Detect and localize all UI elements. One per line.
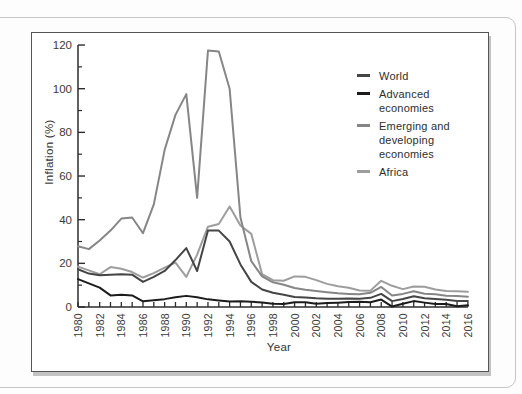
x-tick-label: 2004	[332, 313, 344, 338]
x-tick-label: 1996	[245, 313, 257, 338]
legend-swatch-africa	[357, 170, 370, 173]
legend-item-world: World	[357, 69, 487, 83]
x-tick-label: 2016	[462, 313, 474, 338]
x-tick-label: 1994	[224, 313, 236, 338]
y-tick-label: 100	[53, 83, 72, 95]
legend-swatch-emerging-developing	[357, 124, 370, 127]
x-tick-label: 1984	[115, 313, 127, 338]
x-tick-label: 1980	[72, 313, 84, 338]
x-tick-label: 1988	[159, 313, 171, 338]
x-tick-label: 2008	[375, 313, 387, 338]
legend: World Advanced economies Emerging and de…	[357, 69, 487, 183]
y-tick-label: 20	[59, 257, 72, 269]
legend-label-emerging-developing: Emerging and developing economies	[379, 119, 487, 161]
x-tick-label: 2010	[397, 313, 409, 338]
x-axis-title: Year	[229, 341, 329, 353]
y-tick-label: 40	[59, 214, 72, 226]
x-tick-label: 2014	[440, 313, 452, 338]
x-tick-label: 2012	[419, 313, 431, 338]
y-tick-label: 120	[53, 39, 72, 51]
x-tick-label: 2006	[354, 313, 366, 338]
series-line-world	[78, 231, 468, 302]
legend-item-africa: Africa	[357, 165, 487, 179]
legend-label-advanced-economies: Advanced economies	[379, 87, 487, 115]
x-tick-label: 1990	[180, 313, 192, 338]
x-tick-label: 1998	[267, 313, 279, 338]
y-axis-title: Inflation (%)	[43, 82, 55, 222]
page: { "chart_data": { "type": "line", "title…	[0, 0, 522, 394]
legend-item-emerging-developing: Emerging and developing economies	[357, 119, 487, 161]
x-tick-label: 1982	[94, 313, 106, 338]
y-tick-label: 80	[59, 126, 72, 138]
x-tick-label: 2002	[310, 313, 322, 338]
x-tick-label: 1986	[137, 313, 149, 338]
legend-swatch-world	[357, 74, 370, 77]
legend-label-africa: Africa	[379, 165, 408, 179]
y-tick-label: 0	[66, 301, 72, 313]
x-tick-label: 1992	[202, 313, 214, 338]
y-tick-label: 60	[59, 170, 72, 182]
series-line-africa	[78, 207, 468, 292]
legend-swatch-advanced-economies	[357, 92, 370, 95]
legend-label-world: World	[379, 69, 409, 83]
chart-panel: 0204060801001201980198219841986198819901…	[31, 32, 489, 372]
x-tick-label: 2000	[289, 313, 301, 338]
legend-item-advanced-economies: Advanced economies	[357, 87, 487, 115]
